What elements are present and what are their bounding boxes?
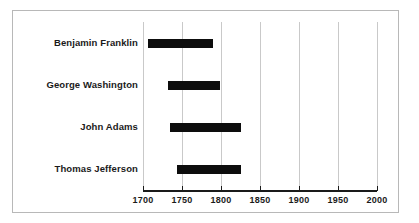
gridline-1700 xyxy=(143,22,144,190)
gridline-1950 xyxy=(338,22,339,190)
x-axis-tick-1700 xyxy=(143,186,144,191)
bar-george-washington xyxy=(168,81,220,90)
bar-john-adams xyxy=(170,123,241,132)
x-axis-tick-label-1700: 1700 xyxy=(123,195,163,205)
x-axis-tick-label-1750: 1750 xyxy=(162,195,202,205)
x-axis-tick-1900 xyxy=(299,186,300,191)
category-label-george-washington: George Washington xyxy=(46,79,138,90)
bar-thomas-jefferson xyxy=(177,165,242,174)
gridline-1850 xyxy=(260,22,261,190)
x-axis-tick-1850 xyxy=(260,186,261,191)
bar-benjamin-franklin xyxy=(148,39,214,48)
category-axis-labels: Benjamin FranklinGeorge WashingtonJohn A… xyxy=(18,22,138,190)
plot-area xyxy=(143,22,377,190)
x-axis-tick-label-1850: 1850 xyxy=(240,195,280,205)
category-label-benjamin-franklin: Benjamin Franklin xyxy=(54,37,138,48)
x-axis-tick-1800 xyxy=(221,186,222,191)
lifespan-bar-chart: Benjamin FranklinGeorge WashingtonJohn A… xyxy=(0,0,419,223)
x-axis-tick-1950 xyxy=(338,186,339,191)
x-axis-tick-label-1950: 1950 xyxy=(318,195,358,205)
gridline-2000 xyxy=(377,22,378,190)
x-axis-tick-1750 xyxy=(182,186,183,191)
x-axis-tick-label-1900: 1900 xyxy=(279,195,319,205)
category-label-thomas-jefferson: Thomas Jefferson xyxy=(55,163,138,174)
x-axis-tick-label-2000: 2000 xyxy=(357,195,397,205)
gridline-1900 xyxy=(299,22,300,190)
x-axis-tick-2000 xyxy=(377,186,378,191)
x-axis-tick-label-1800: 1800 xyxy=(201,195,241,205)
category-label-john-adams: John Adams xyxy=(80,121,138,132)
